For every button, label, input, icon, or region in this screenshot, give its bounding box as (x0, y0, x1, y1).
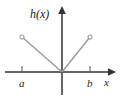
tick-label-b: b (87, 77, 93, 89)
figure-container: h(x) x a b (0, 0, 124, 108)
function-graph-figure: h(x) x a b (0, 0, 124, 108)
y-axis-arrowhead (58, 6, 66, 14)
right-open-endpoint-icon (88, 35, 92, 39)
left-open-endpoint-icon (20, 35, 24, 39)
x-axis-arrowhead (108, 68, 116, 76)
curve-left-branch (22, 37, 62, 72)
x-axis-label: x (103, 76, 109, 88)
y-axis-label: h(x) (30, 7, 49, 21)
curve-right-branch (62, 37, 90, 72)
tick-label-a: a (19, 77, 25, 89)
